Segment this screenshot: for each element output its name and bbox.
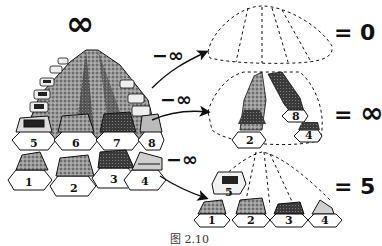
figure-caption: 图 2.10 [170, 230, 209, 246]
mid-stone-4-number: 4 [305, 129, 313, 142]
arrow-to-five [160, 176, 206, 198]
equals-sign: = [334, 102, 352, 127]
stone-4-number: 4 [141, 175, 149, 188]
empty-pile-outline [208, 6, 332, 63]
stone-7-number: 7 [113, 137, 121, 150]
bottom-stone-5-number: 5 [225, 186, 233, 199]
five-stone-pile [194, 152, 342, 227]
bottom-stone-4-number: 4 [321, 214, 329, 227]
result-zero: = 0 [334, 20, 375, 45]
mid-stone-8-number: 8 [292, 110, 300, 123]
bottom-stone-2-number: 2 [247, 214, 255, 227]
equals-sign: = [334, 20, 352, 45]
mid-stone-2-number: 2 [246, 134, 254, 147]
result-value: ∞ [360, 96, 382, 129]
minus-infinity-label-1: −∞ [152, 44, 184, 66]
result-value: 5 [360, 174, 375, 199]
bottom-stone-1-number: 1 [208, 214, 216, 227]
stone-1-number: 1 [25, 176, 33, 189]
bottom-stone-3-number: 3 [285, 214, 293, 227]
minus-infinity-label-3: −∞ [166, 148, 198, 170]
stone-5-number: 5 [30, 137, 38, 150]
result-value: 0 [360, 20, 375, 45]
result-infinity: = ∞ [334, 96, 382, 129]
result-five: = 5 [334, 174, 375, 199]
stone-3-number: 3 [110, 173, 118, 186]
stone-8-number: 8 [148, 137, 156, 150]
stone-6-number: 6 [72, 137, 80, 150]
equals-sign: = [334, 174, 352, 199]
minus-infinity-label-2: −∞ [160, 88, 192, 110]
arrow-to-infinity [152, 111, 208, 120]
stone-2-number: 2 [70, 182, 78, 195]
